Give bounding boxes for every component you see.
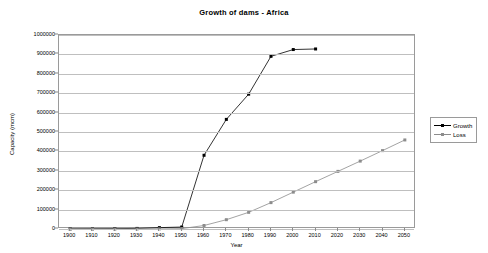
x-axis-tick-mark (158, 228, 159, 231)
gridline-horizontal (59, 210, 414, 211)
x-axis-tick-mark (114, 228, 115, 231)
y-axis-tick-label: 100000 (0, 206, 55, 212)
gridline-horizontal (59, 74, 414, 75)
y-axis-title: Capacity (mcm) (9, 94, 15, 174)
legend-label-growth: Growth (453, 123, 472, 129)
y-axis-tick-label: 600000 (0, 109, 55, 115)
y-axis-tick-label: 900000 (0, 50, 55, 56)
plot-area (58, 34, 415, 228)
y-axis-tick-mark (54, 150, 58, 151)
x-axis-title: Year (58, 242, 415, 248)
legend-item-growth: Growth (434, 121, 472, 130)
y-axis-tick-mark (54, 131, 58, 132)
data-point-marker (314, 47, 317, 50)
legend-swatch-growth (434, 122, 451, 129)
x-axis-tick-mark (337, 228, 338, 231)
x-axis-tick-label: 2000 (286, 232, 298, 238)
x-axis-tick-label: 2050 (398, 232, 410, 238)
x-axis-tick-mark (181, 228, 182, 231)
x-axis-tick-label: 2010 (308, 232, 320, 238)
y-axis-tick-mark (54, 169, 58, 170)
x-axis-tick-label: 1990 (264, 232, 276, 238)
x-axis-tick-label: 1970 (219, 232, 231, 238)
x-axis-tick-mark (248, 228, 249, 231)
y-axis-tick-label: 800000 (0, 70, 55, 76)
y-axis-tick-mark (54, 208, 58, 209)
gridline-horizontal (59, 35, 414, 36)
x-axis-tick-mark (91, 228, 92, 231)
x-axis-tick-mark (136, 228, 137, 231)
y-axis-tick-mark (54, 53, 58, 54)
x-axis-tick-mark (404, 228, 405, 231)
x-axis-tick-mark (315, 228, 316, 231)
x-axis-tick-label: 2020 (331, 232, 343, 238)
x-axis-tick-label: 2030 (353, 232, 365, 238)
y-axis-tick-label: 700000 (0, 89, 55, 95)
x-axis-tick-label: 1930 (130, 232, 142, 238)
legend-label-loss: Loss (453, 132, 466, 138)
data-point-marker (203, 154, 206, 157)
x-axis-tick-mark (292, 228, 293, 231)
data-point-marker (314, 180, 317, 183)
data-point-marker (225, 118, 228, 121)
x-axis-tick-label: 1900 (63, 232, 75, 238)
data-point-marker (292, 48, 295, 51)
gridline-horizontal (59, 54, 414, 55)
x-axis-tick-label: 1960 (197, 232, 209, 238)
legend-item-loss: Loss (434, 130, 472, 139)
data-point-marker (269, 201, 272, 204)
x-axis-tick-label: 1910 (85, 232, 97, 238)
y-axis-tick-label: 400000 (0, 147, 55, 153)
y-axis-tick-label: 200000 (0, 186, 55, 192)
x-axis-tick-mark (225, 228, 226, 231)
y-axis-tick-mark (54, 111, 58, 112)
chart-title: Growth of dams - Africa (0, 8, 488, 17)
x-axis-tick-mark (203, 228, 204, 231)
x-axis-tick-label: 2040 (375, 232, 387, 238)
gridline-horizontal (59, 229, 414, 230)
y-axis-tick-label: 0 (0, 225, 55, 231)
chart-container: Growth of dams - Africa Capacity (mcm) Y… (0, 0, 488, 253)
y-axis-tick-mark (54, 72, 58, 73)
x-axis-tick-mark (359, 228, 360, 231)
x-axis-tick-label: 1940 (152, 232, 164, 238)
series-line (70, 49, 315, 229)
y-axis-tick-label: 500000 (0, 128, 55, 134)
data-point-marker (359, 160, 362, 163)
y-axis-tick-mark (54, 92, 58, 93)
y-axis-tick-label: 300000 (0, 167, 55, 173)
x-axis-tick-label: 1980 (242, 232, 254, 238)
gridline-horizontal (59, 93, 414, 94)
x-axis-tick-mark (69, 228, 70, 231)
data-point-marker (203, 224, 206, 227)
gridline-horizontal (59, 190, 414, 191)
y-axis-tick-mark (54, 228, 58, 229)
gridline-horizontal (59, 113, 414, 114)
y-axis-tick-mark (54, 34, 58, 35)
gridline-horizontal (59, 151, 414, 152)
x-axis-tick-mark (382, 228, 383, 231)
x-axis-tick-label: 1920 (108, 232, 120, 238)
series-layer (59, 35, 414, 227)
y-axis-tick-mark (54, 189, 58, 190)
series-growth (69, 47, 317, 230)
x-axis-tick-mark (270, 228, 271, 231)
x-axis-tick-label: 1950 (175, 232, 187, 238)
data-point-marker (403, 138, 406, 141)
y-axis-tick-label: 1000000 (0, 31, 55, 37)
data-point-marker (247, 211, 250, 214)
data-point-marker (225, 218, 228, 221)
gridline-horizontal (59, 132, 414, 133)
series-line (70, 140, 405, 229)
legend-swatch-loss (434, 131, 451, 138)
gridline-horizontal (59, 171, 414, 172)
chart-legend: Growth Loss (430, 117, 477, 143)
